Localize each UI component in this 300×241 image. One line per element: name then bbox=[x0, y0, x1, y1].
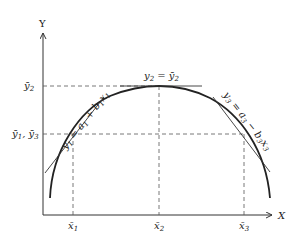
diagram-canvas: Y X ȳ2 ȳ1, ȳ3 x̄1 x̄2 x̄3 y1 = a1 + b1x1… bbox=[0, 0, 300, 241]
x-tick-x3bar: x̄3 bbox=[239, 220, 250, 233]
x-tick-x2bar: x̄2 bbox=[154, 220, 165, 233]
y-tick-y2bar: ȳ2 bbox=[23, 80, 35, 93]
tangent-3-equation: y3 = a3 − b3x3 bbox=[219, 89, 274, 154]
tangent-2-equation: y2 = ȳ2 bbox=[143, 70, 180, 83]
dashed-guides bbox=[43, 86, 244, 215]
x-tick-x1bar: x̄1 bbox=[68, 220, 78, 233]
y-tick-y1bar-y3bar: ȳ1, ȳ3 bbox=[11, 128, 39, 141]
x-axis-label: X bbox=[277, 210, 286, 221]
y-axis-label: Y bbox=[38, 18, 46, 29]
tangent-1-equation: y1 = a1 + b1x1 bbox=[58, 88, 113, 153]
